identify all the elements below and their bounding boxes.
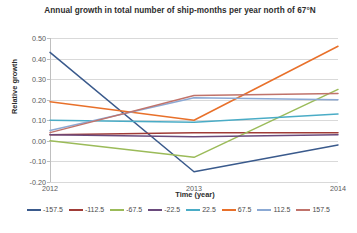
legend-item[interactable]: 157.5 bbox=[296, 206, 330, 213]
x-axis-title: Time (year) bbox=[50, 190, 340, 199]
y-axis-tick-mark bbox=[47, 182, 50, 183]
legend-item[interactable]: -157.5 bbox=[27, 206, 63, 213]
chart-legend: -157.5-112.5-67.5-22.522.567.5112.5157.5 bbox=[0, 206, 357, 213]
series-line bbox=[50, 52, 338, 171]
legend-item[interactable]: 67.5 bbox=[222, 206, 252, 213]
legend-swatch bbox=[148, 209, 162, 211]
y-axis-title: Relative growth bbox=[10, 52, 19, 122]
plot-area: 0.500.400.300.200.100.00-0.10-0.20 20122… bbox=[50, 38, 338, 182]
y-axis-tick-label: 0.40 bbox=[32, 54, 46, 63]
chart-title: Annual growth in total number of ship-mo… bbox=[30, 5, 330, 16]
legend-label: -22.5 bbox=[164, 206, 180, 213]
legend-item[interactable]: -112.5 bbox=[69, 206, 104, 213]
y-axis-tick-label: 0.10 bbox=[32, 116, 46, 125]
legend-item[interactable]: 22.5 bbox=[186, 206, 216, 213]
legend-label: -157.5 bbox=[43, 206, 63, 213]
legend-swatch bbox=[110, 209, 124, 211]
legend-swatch bbox=[257, 209, 271, 211]
legend-swatch bbox=[186, 209, 200, 211]
legend-swatch bbox=[27, 209, 41, 211]
series-line bbox=[50, 98, 338, 131]
legend-label: 22.5 bbox=[202, 206, 216, 213]
legend-swatch bbox=[222, 209, 236, 211]
legend-label: 67.5 bbox=[238, 206, 252, 213]
series-line bbox=[50, 135, 338, 137]
legend-swatch bbox=[69, 209, 83, 211]
legend-label: 157.5 bbox=[312, 206, 330, 213]
y-axis-tick-label: 0.30 bbox=[32, 75, 46, 84]
legend-label: -112.5 bbox=[85, 206, 104, 213]
legend-label: -67.5 bbox=[126, 206, 142, 213]
gridline bbox=[50, 182, 338, 183]
y-axis-tick-label: 0.50 bbox=[32, 34, 46, 43]
line-chart: Annual growth in total number of ship-mo… bbox=[0, 0, 357, 233]
y-axis-tick-label: 0.00 bbox=[32, 136, 46, 145]
legend-item[interactable]: 112.5 bbox=[257, 206, 290, 213]
y-axis-tick-label: 0.20 bbox=[32, 95, 46, 104]
series-line bbox=[50, 133, 338, 135]
legend-item[interactable]: -67.5 bbox=[110, 206, 142, 213]
y-axis-tick-label: -0.10 bbox=[30, 157, 46, 166]
legend-label: 112.5 bbox=[273, 206, 290, 213]
legend-swatch bbox=[296, 209, 310, 211]
series-lines bbox=[50, 38, 338, 182]
legend-item[interactable]: -22.5 bbox=[148, 206, 180, 213]
